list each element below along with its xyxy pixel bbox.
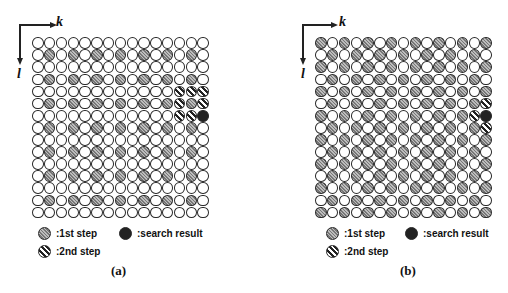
grid-cell [362, 97, 374, 109]
grid-cell [409, 182, 421, 194]
grid-cell [185, 146, 197, 158]
grid-cell [79, 170, 91, 182]
empty-circle-icon [127, 158, 138, 170]
empty-circle-icon [91, 86, 102, 98]
grid-cell [103, 85, 115, 97]
grid-cell [468, 194, 480, 206]
empty-circle-icon [433, 74, 444, 86]
grid-cell [185, 170, 197, 182]
grid-cell [32, 194, 44, 206]
grid-cell [315, 122, 327, 134]
grid-cell [445, 182, 457, 194]
grid-cell [91, 73, 103, 85]
empty-circle-icon [127, 37, 138, 49]
first-step-circle-icon [91, 146, 102, 158]
grid-cell [409, 97, 421, 109]
grid-cell [185, 158, 197, 170]
empty-circle-icon [339, 195, 350, 207]
grid-cell [386, 122, 398, 134]
grid-cell [421, 110, 433, 122]
grid-cell [350, 49, 362, 61]
empty-circle-icon [174, 37, 185, 49]
grid-cell [398, 170, 410, 182]
grid-cell [327, 97, 339, 109]
first-step-circle-icon [433, 110, 444, 122]
grid-cell [445, 170, 457, 182]
grid-cell [138, 61, 150, 73]
empty-circle-icon [103, 98, 114, 110]
grid-cell [150, 206, 162, 218]
empty-circle-icon [351, 207, 362, 219]
grid-cell [103, 73, 115, 85]
empty-circle-icon [68, 207, 79, 219]
grid-cell [445, 146, 457, 158]
grid-cell [457, 61, 469, 73]
grid-cell [126, 134, 138, 146]
grid-cell [174, 37, 186, 49]
first-step-circle-icon [351, 195, 362, 207]
empty-circle-icon [421, 158, 432, 170]
first-step-circle-icon [327, 122, 338, 134]
empty-circle-icon [68, 134, 79, 146]
empty-circle-icon [127, 146, 138, 158]
grid-cell [386, 49, 398, 61]
grid-cell [421, 146, 433, 158]
empty-circle-icon [103, 61, 114, 73]
grid-cell [398, 61, 410, 73]
grid-cell [433, 134, 445, 146]
grid-cell [162, 97, 174, 109]
grid-cell [67, 49, 79, 61]
first-step-circle-icon [362, 182, 373, 194]
empty-circle-icon [386, 74, 397, 86]
grid-cell [197, 110, 209, 122]
grid-cell [138, 37, 150, 49]
empty-circle-icon [103, 207, 114, 219]
empty-circle-icon [32, 110, 43, 122]
empty-circle-icon [150, 134, 161, 146]
first-step-circle-icon [374, 195, 385, 207]
first-step-circle-icon [433, 37, 444, 49]
empty-circle-icon [79, 195, 90, 207]
grid-cell [44, 37, 56, 49]
grid-cell [174, 194, 186, 206]
grid-cell [197, 61, 209, 73]
grid-cell [56, 37, 68, 49]
empty-circle-icon [32, 146, 43, 158]
grid-cell [398, 97, 410, 109]
grid-cell [386, 158, 398, 170]
empty-circle-icon [127, 61, 138, 73]
empty-circle-icon [315, 122, 326, 134]
grid-cell [44, 49, 56, 61]
second-step-circle-icon [480, 122, 491, 134]
empty-circle-icon [56, 146, 67, 158]
empty-circle-icon [421, 134, 432, 146]
empty-circle-icon [150, 146, 161, 158]
empty-circle-icon [469, 182, 480, 194]
empty-circle-icon [127, 134, 138, 146]
first-step-circle-icon [410, 37, 421, 49]
grid-cell [362, 182, 374, 194]
empty-circle-icon [186, 134, 197, 146]
legend-label: :search result [423, 228, 489, 239]
empty-circle-icon [386, 49, 397, 61]
empty-circle-icon [374, 110, 385, 122]
empty-circle-icon [315, 74, 326, 86]
empty-circle-icon [150, 110, 161, 122]
empty-circle-icon [362, 195, 373, 207]
empty-circle-icon [32, 37, 43, 49]
grid-cell [327, 194, 339, 206]
empty-circle-icon [162, 86, 173, 98]
empty-circle-icon [162, 158, 173, 170]
first-step-circle-icon [421, 74, 432, 86]
grid-cell [327, 146, 339, 158]
empty-circle-icon [410, 98, 421, 110]
first-step-circle-icon [410, 207, 421, 219]
empty-circle-icon [91, 182, 102, 194]
empty-circle-icon [186, 182, 197, 194]
legend-second-step: :2nd step [38, 245, 100, 258]
empty-circle-icon [445, 37, 456, 49]
grid-cell [468, 146, 480, 158]
grid-cell [91, 49, 103, 61]
first-step-swatch-icon [38, 227, 51, 240]
empty-circle-icon [127, 122, 138, 134]
